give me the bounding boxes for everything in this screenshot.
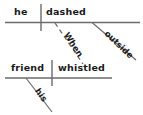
sentence-diagram: he dashed outside When friend whistled h… (0, 0, 143, 115)
word-bottom-predicate: whistled (58, 63, 105, 73)
word-bottom-subject: friend (11, 63, 44, 73)
word-top-predicate: dashed (46, 7, 86, 17)
word-top-subject: he (14, 7, 28, 17)
diagram-lines (0, 0, 143, 115)
